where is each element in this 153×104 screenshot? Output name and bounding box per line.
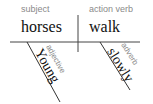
verb-word: walk xyxy=(89,18,120,36)
subject-word: horses xyxy=(21,18,62,36)
subject-role-label: subject xyxy=(21,4,50,14)
verb-role-label: action verb xyxy=(89,4,133,14)
